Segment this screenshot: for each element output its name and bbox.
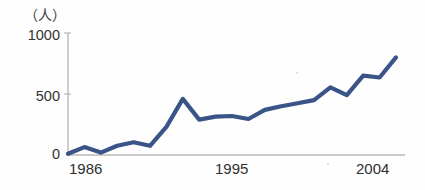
chart-axis-lines	[68, 33, 405, 155]
line-chart-figure: （人） 1000 500 0 1986 1995 2004	[0, 0, 425, 190]
plot-area	[0, 0, 425, 190]
data-series-line	[68, 57, 396, 153]
